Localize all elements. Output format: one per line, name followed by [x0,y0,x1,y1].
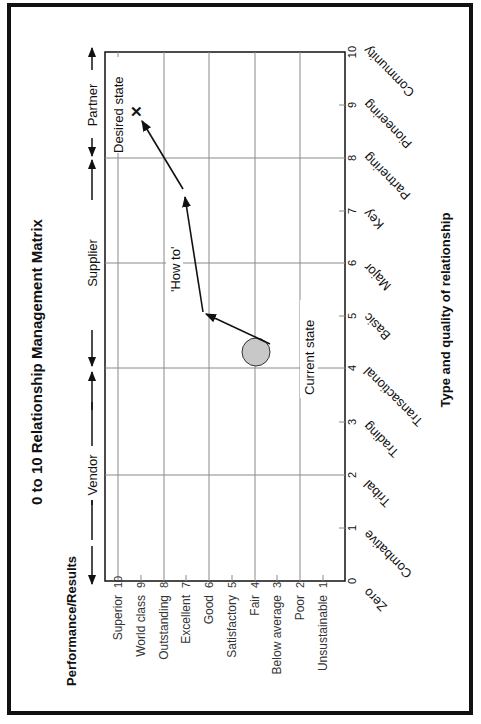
svg-text:Excellent: Excellent [179,594,193,643]
desired-state-marker-x: ✕ [130,103,143,120]
svg-text:8: 8 [158,582,170,588]
svg-text:10: 10 [346,46,358,58]
how-to-label: 'How to' [168,247,183,292]
svg-text:1: 1 [317,582,329,588]
svg-text:World class: World class [134,595,148,657]
svg-text:Good: Good [202,595,216,624]
svg-text:Satisfactory: Satisfactory [225,595,239,658]
svg-text:Outstanding: Outstanding [157,595,171,660]
svg-text:2: 2 [294,582,306,588]
svg-text:Superior: Superior [111,595,125,640]
svg-text:7: 7 [180,582,192,588]
diagram-title: 0 to 10 Relationship Management Matrix [28,218,45,505]
relationship-matrix-diagram: 0 to 10 Relationship Management Matrix P… [0,0,481,724]
svg-text:6: 6 [203,582,215,588]
svg-text:6: 6 [346,260,358,266]
svg-text:0: 0 [346,578,358,584]
svg-text:Unsustainable: Unsustainable [316,595,330,671]
svg-text:1: 1 [346,525,358,531]
svg-text:7: 7 [346,208,358,214]
svg-text:8: 8 [346,155,358,161]
band-label-partner: Partner [85,83,100,126]
desired-state-label: Desired state [111,76,126,153]
current-state-label: Current state [302,320,317,395]
relationship-axis-title: Type and quality of relationship [438,213,453,408]
svg-text:Fair: Fair [248,595,262,616]
svg-text:2: 2 [346,472,358,478]
svg-text:4: 4 [346,365,358,371]
svg-text:3: 3 [271,582,283,588]
svg-text:9: 9 [135,582,147,588]
svg-text:Below average: Below average [270,595,284,675]
svg-text:3: 3 [346,419,358,425]
svg-text:5: 5 [346,313,358,319]
band-label-supplier: Supplier [85,238,100,286]
svg-text:9: 9 [346,102,358,108]
performance-axis-title: Performance/Results [64,556,79,686]
svg-text:5: 5 [226,582,238,588]
svg-text:10: 10 [112,576,124,588]
svg-text:4: 4 [249,582,261,588]
band-label-vendor: Vendor [85,454,100,496]
svg-text:Poor: Poor [293,595,307,620]
